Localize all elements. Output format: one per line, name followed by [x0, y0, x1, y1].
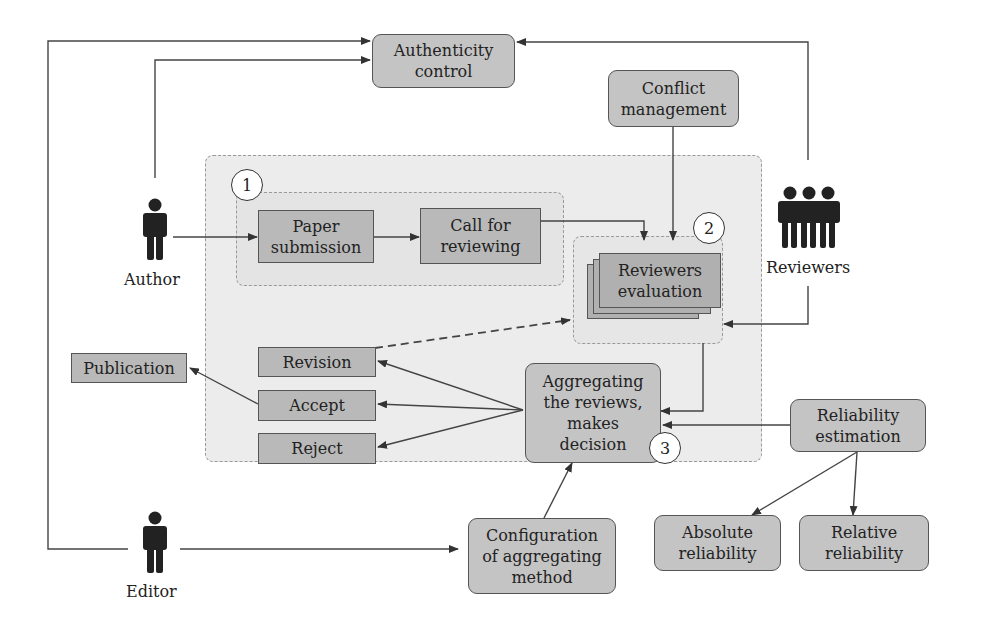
reject-node: Reject	[258, 433, 376, 464]
editor-person-icon	[140, 511, 170, 573]
review-process-diagram: Authenticity control Conflict management…	[0, 0, 1005, 630]
relative-reliability-node: Relative reliability	[799, 515, 929, 571]
revision-node: Revision	[258, 347, 376, 377]
configuration-node: Configuration of aggregating method	[468, 518, 616, 594]
step-number-3: 3	[649, 432, 681, 464]
conflict-management-node: Conflict management	[608, 70, 739, 127]
accept-node: Accept	[258, 390, 376, 421]
editor-label: Editor	[126, 582, 177, 601]
reviewers-evaluation-node: Reviewers evaluation	[599, 253, 721, 308]
absolute-reliability-node: Absolute reliability	[654, 515, 781, 571]
author-person-icon	[140, 198, 170, 260]
reliability-estimation-node: Reliability estimation	[790, 399, 926, 452]
author-label: Author	[124, 270, 180, 289]
paper-submission-node: Paper submission	[258, 210, 374, 263]
authenticity-control-node: Authenticity control	[372, 34, 515, 88]
reviewers-group-icon	[776, 186, 842, 248]
reviewers-label: Reviewers	[766, 258, 850, 277]
publication-node: Publication	[71, 353, 187, 383]
step-number-1: 1	[231, 169, 263, 201]
call-for-reviewing-node: Call for reviewing	[420, 208, 541, 264]
step-number-2: 2	[693, 212, 725, 244]
aggregating-decision-node: Aggregating the reviews, makes decision	[525, 363, 661, 463]
